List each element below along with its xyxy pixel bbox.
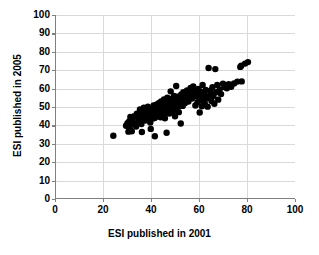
plot-canvas xyxy=(55,15,295,199)
data-point xyxy=(152,133,158,139)
x-tick-label: 20 xyxy=(88,204,118,215)
data-point xyxy=(205,65,211,71)
data-point xyxy=(139,129,145,135)
data-point xyxy=(110,133,116,139)
data-point xyxy=(148,126,154,132)
data-point xyxy=(178,120,184,126)
data-point xyxy=(239,78,245,84)
data-point xyxy=(215,96,221,102)
data-point xyxy=(212,66,218,72)
data-point xyxy=(129,128,135,134)
data-point xyxy=(218,91,224,97)
data-point xyxy=(163,130,169,136)
data-point xyxy=(162,115,168,121)
data-point xyxy=(176,109,182,115)
data-point xyxy=(245,59,251,65)
x-tick-label: 100 xyxy=(280,204,310,215)
data-point xyxy=(197,109,203,115)
data-point xyxy=(173,83,179,89)
x-tick-label: 80 xyxy=(232,204,262,215)
data-point xyxy=(204,103,210,109)
x-tick-label: 0 xyxy=(40,204,70,215)
x-tick-label: 40 xyxy=(136,204,166,215)
x-tick-label: 60 xyxy=(184,204,214,215)
scatter-chart: ESI published in 2005 ESI published in 2… xyxy=(0,0,319,255)
plot-area xyxy=(55,15,295,199)
